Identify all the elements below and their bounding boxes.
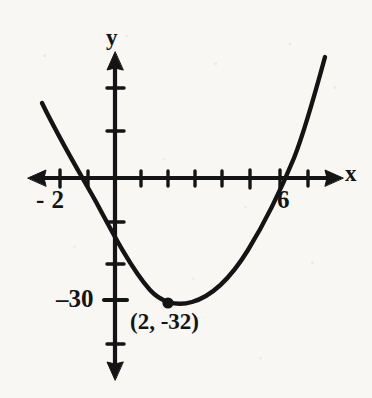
vertex-point-marker (162, 297, 173, 308)
x-axis-right-arrowhead (325, 170, 343, 186)
y-axis-up-arrowhead (107, 52, 123, 70)
y-axis-label: y (106, 25, 118, 51)
y-axis-down-arrowhead (107, 362, 123, 380)
x-axis-label: x (345, 161, 357, 187)
x-axis-left-arrowhead (28, 170, 46, 186)
figure-canvas: y x - 2 6 –30 (2, -32) (0, 0, 372, 398)
x-intercept-right-label: 6 (277, 186, 290, 214)
vertex-coordinate-label: (2, -32) (130, 309, 199, 335)
x-intercept-left-label: - 2 (36, 186, 65, 214)
y-axis-value-label: –30 (56, 285, 94, 313)
parabola-curve (42, 57, 325, 304)
